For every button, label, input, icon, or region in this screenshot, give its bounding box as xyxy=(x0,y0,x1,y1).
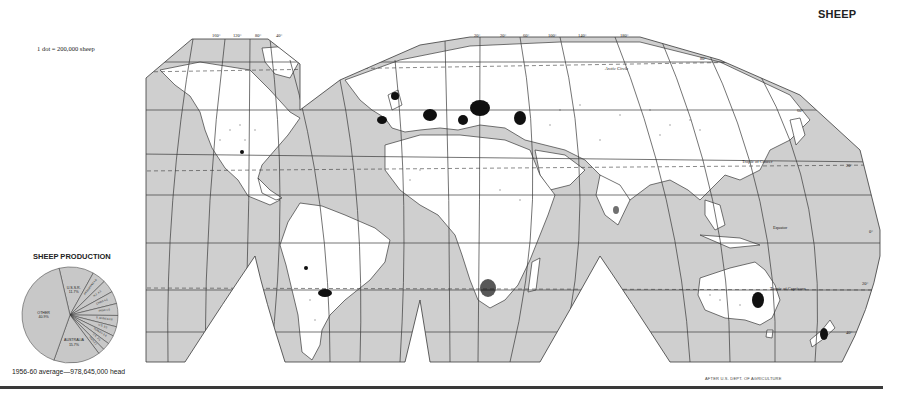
lat-label: 80° xyxy=(700,56,707,61)
lon-label: 40° xyxy=(276,33,283,38)
lat-label: 60° xyxy=(797,108,804,113)
pie-slice-label: U.S.S.R.11.7% xyxy=(67,286,81,295)
lat-label: 40° xyxy=(846,330,853,335)
lon-label: 120° xyxy=(233,33,242,38)
tropic-capricorn-label: Tropic of Capricorn xyxy=(770,286,807,291)
equator-label: Equator xyxy=(773,225,788,230)
lon-label: 20° xyxy=(500,33,507,38)
pie-caption: 1956-60 average—978,645,000 head xyxy=(12,368,125,375)
lon-label: 160° xyxy=(212,33,221,38)
lon-label: 20° xyxy=(474,33,481,38)
credit-line: AFTER U.S. DEPT. OF AGRICULTURE xyxy=(705,376,782,381)
world-map: 160° 120° 80° 40° 20° 20° 60° 100° 140° … xyxy=(0,0,900,402)
pie-slice-label: OTHER40.9% xyxy=(37,311,50,320)
lon-label: 140° xyxy=(578,33,587,38)
lat-label: 20° xyxy=(846,163,853,168)
pie-slices xyxy=(22,267,118,363)
lon-label: 180° xyxy=(620,33,629,38)
lat-label: 0° xyxy=(869,229,873,234)
sheep-production-pie: U.S.S.R.11.7%ARGENTINA 4.6N.Z. 4.3CHINA … xyxy=(15,260,125,370)
lon-label: 80° xyxy=(255,33,262,38)
arctic-circle-label: Arctic Circle xyxy=(604,66,628,71)
lat-label: 20° xyxy=(862,281,869,286)
lon-label: 60° xyxy=(523,33,530,38)
tropic-cancer-label: Tropic of Cancer xyxy=(742,159,773,164)
bottom-rule xyxy=(0,386,883,389)
lon-label: 100° xyxy=(548,33,557,38)
